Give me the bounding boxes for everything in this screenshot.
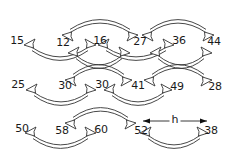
number-41: 41 [131, 80, 144, 91]
number-30-b: 30 [95, 79, 108, 90]
number-44: 44 [207, 36, 220, 47]
number-30-a: 30 [58, 80, 71, 91]
number-49: 49 [170, 81, 183, 92]
number-25: 25 [11, 79, 24, 90]
number-27: 27 [133, 36, 146, 47]
number-58: 58 [55, 125, 68, 136]
double-arrow-36-49 [150, 47, 212, 68]
sequence-diagram: 15 12 16 27 36 44 25 30 30 41 49 28 50 5… [0, 0, 237, 158]
arrow-layer [0, 0, 237, 158]
number-38: 38 [204, 125, 217, 136]
measure-h-label: h [170, 114, 181, 125]
number-60: 60 [94, 124, 107, 135]
number-28: 28 [208, 81, 221, 92]
number-36: 36 [172, 35, 185, 46]
number-15: 15 [10, 35, 23, 46]
double-arrow-52-38 [140, 127, 208, 148]
number-50: 50 [15, 123, 28, 134]
number-52: 52 [134, 125, 147, 136]
number-16: 16 [93, 35, 106, 46]
number-12: 12 [56, 37, 69, 48]
